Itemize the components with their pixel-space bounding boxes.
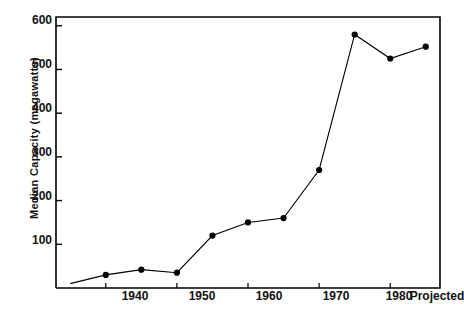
y-axis-ticks	[56, 26, 62, 245]
y-tick-label-200: 200	[18, 189, 52, 203]
y-tick-label-600: 600	[18, 13, 52, 27]
x-tick-label-1970: 1970	[323, 289, 350, 303]
y-tick-label-500: 500	[18, 57, 52, 71]
x-tick-label-1960: 1960	[256, 289, 283, 303]
x-tick-label-1950: 1950	[189, 289, 216, 303]
y-tick-label-400: 400	[18, 101, 52, 115]
y-tick-label-100: 100	[18, 233, 52, 247]
y-tick-label-300: 300	[18, 145, 52, 159]
data-line-series	[70, 34, 426, 283]
x-tick-label-1980: 1980	[386, 289, 413, 303]
axis-frame	[56, 17, 440, 288]
y-axis-tick-labels: 600 500 400 300 200 100	[16, 0, 52, 311]
data-point-markers	[103, 31, 429, 278]
x-tick-label-1940: 1940	[122, 289, 149, 303]
x-tick-label-projected: Projected	[410, 289, 464, 303]
